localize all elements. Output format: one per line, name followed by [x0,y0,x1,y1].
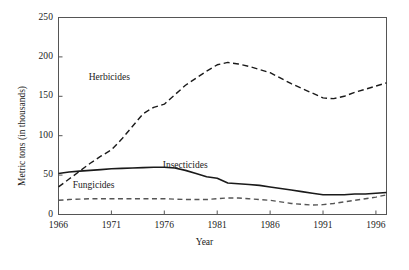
y-tick-label: 0 [20,209,53,219]
y-tick-label: 250 [20,12,53,22]
x-tick-label: 1991 [303,220,343,230]
series-label-insecticides: Insecticides [163,160,208,170]
x-tick-label: 1986 [250,220,290,230]
x-tick-label: 1971 [91,220,131,230]
y-tick-label: 150 [20,90,53,100]
pesticide-usage-line-chart: Metric tons (in thousands) Year 05010015… [0,0,409,270]
chart-plot-area [0,0,409,270]
x-tick-label: 1996 [356,220,396,230]
x-axis-title: Year [0,237,409,247]
x-tick-label: 1976 [144,220,184,230]
series-label-fungicides: Fungicides [73,180,115,190]
y-tick-label: 200 [20,51,53,61]
y-tick-label: 100 [20,130,53,140]
x-tick-label: 1981 [197,220,237,230]
x-tick-label: 1966 [39,220,79,230]
series-label-herbicides: Herbicides [89,72,130,82]
y-tick-label: 50 [20,169,53,179]
series-line-fungicides [59,195,387,205]
